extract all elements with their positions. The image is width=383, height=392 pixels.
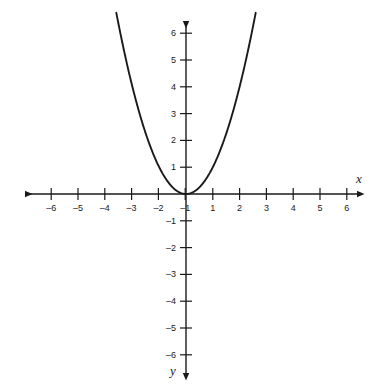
x-tick-label: –3 — [127, 204, 137, 213]
y-tick-label: 5 — [171, 56, 176, 65]
x-tick-label: –5 — [73, 204, 83, 213]
y-tick-label: –2 — [166, 243, 176, 252]
x-tick-label: –4 — [100, 204, 110, 213]
x-tick-label: 6 — [344, 204, 349, 213]
y-tick-label: –4 — [166, 297, 176, 306]
x-axis-label: x — [356, 172, 362, 185]
y-tick-label: –6 — [166, 350, 176, 359]
x-tick-label: –1 — [180, 204, 190, 213]
x-tick-label: 1 — [210, 204, 215, 213]
y-axis-group — [180, 22, 192, 374]
x-tick-label: 4 — [291, 204, 296, 213]
x-tick-label: 2 — [237, 204, 242, 213]
x-axis-group — [26, 188, 358, 200]
y-tick-label: –5 — [166, 324, 176, 333]
y-tick-label: –3 — [166, 270, 176, 279]
coordinate-plane-svg — [0, 0, 383, 392]
y-tick-label: 6 — [171, 29, 176, 38]
y-tick-label: 2 — [171, 136, 176, 145]
y-tick-label: 4 — [171, 82, 176, 91]
x-tick-label: –6 — [46, 204, 56, 213]
y-axis-label: y — [170, 364, 176, 377]
x-tick-label: 5 — [317, 204, 322, 213]
x-tick-label: –2 — [153, 204, 163, 213]
y-tick-label: 1 — [171, 163, 176, 172]
graph-figure: –6 –5 –4 –3 –2 –1 1 2 3 4 5 6 6 5 4 3 2 … — [0, 0, 383, 392]
y-tick-label: 3 — [171, 109, 176, 118]
y-tick-label: –1 — [166, 216, 176, 225]
x-tick-label: 3 — [264, 204, 269, 213]
